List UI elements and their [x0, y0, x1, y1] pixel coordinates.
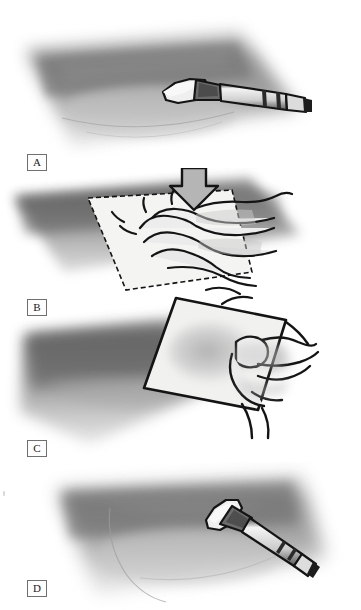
panel-a	[0, 0, 361, 172]
margin-speck	[3, 491, 5, 496]
panel-a-artwork	[0, 0, 361, 172]
illustration-figure: A B C D	[0, 0, 361, 610]
panel-d	[0, 462, 361, 610]
panel-b-artwork	[0, 168, 361, 308]
wash-patch	[58, 476, 326, 602]
panel-label-d: D	[27, 580, 47, 597]
panel-c-artwork	[0, 292, 361, 462]
panel-c	[0, 292, 361, 462]
panel-b	[0, 168, 361, 308]
panel-label-a: A	[27, 154, 47, 171]
panel-d-artwork	[0, 462, 361, 610]
panel-label-c: C	[27, 440, 47, 457]
panel-label-b: B	[27, 299, 47, 316]
